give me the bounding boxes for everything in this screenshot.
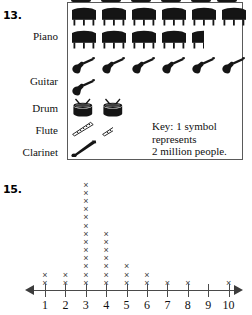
dot-plot-column: × — [223, 279, 235, 287]
dot-plot-column: ×× — [39, 271, 51, 287]
guitar-icon — [101, 57, 125, 75]
axis-tick-label: 7 — [159, 298, 175, 313]
category-label-drum: Drum — [32, 102, 58, 114]
piano-icon — [71, 30, 97, 50]
flute-icon — [71, 121, 95, 137]
piano-symbol — [71, 30, 97, 50]
axis-tick-label: 8 — [180, 298, 196, 313]
axis-tick — [208, 284, 209, 297]
dot-plot-column: ××××××××××××× — [80, 181, 92, 287]
clarinet-icon — [71, 140, 97, 157]
piano-icon — [131, 7, 157, 27]
guitar-symbol-row-1 — [71, 57, 245, 75]
piano-icon — [221, 7, 247, 27]
dot-plot-column: × — [161, 279, 173, 287]
axis-tick-label: 4 — [98, 298, 114, 313]
guitar-symbol — [71, 79, 95, 97]
clarinet-symbol-row — [71, 140, 97, 157]
number-line-axis — [33, 290, 236, 291]
dot-plot-column: ××× — [121, 262, 133, 287]
piano-symbol — [131, 7, 157, 27]
piano-symbol — [101, 30, 127, 50]
piano-symbol — [191, 30, 204, 50]
axis-tick-label: 2 — [57, 298, 73, 313]
guitar-symbol — [131, 57, 155, 75]
guitar-symbol — [221, 57, 245, 75]
guitar-symbol — [71, 57, 95, 75]
piano-symbol — [221, 7, 247, 27]
axis-tick-label: 3 — [78, 298, 94, 313]
flute-icon — [101, 121, 113, 137]
piano-icon — [191, 30, 204, 50]
dot-plot-marker: × — [124, 279, 129, 287]
guitar-symbol — [161, 57, 185, 75]
piano-icon — [71, 7, 97, 27]
dot-plot-chart: 1××2××3×××××××××××××4×××××××5×××6××7×8×9… — [0, 170, 252, 315]
dot-plot-marker: × — [144, 279, 149, 287]
guitar-symbol — [101, 57, 125, 75]
piano-symbol — [101, 7, 127, 27]
dot-plot-column: × — [182, 279, 194, 287]
dot-plot-marker: × — [226, 279, 231, 287]
guitar-icon — [71, 79, 95, 97]
dot-plot-column: ××××××× — [100, 230, 112, 287]
key-line-2: represents — [152, 133, 244, 146]
axis-tick-label: 6 — [139, 298, 155, 313]
category-label-piano: Piano — [33, 30, 58, 42]
pictograph-key: Key: 1 symbol represents 2 million peopl… — [152, 120, 244, 158]
flute-symbol — [71, 121, 95, 137]
piano-symbol — [191, 7, 217, 27]
piano-icon — [191, 7, 217, 27]
piano-symbol — [131, 30, 157, 50]
flute-symbol-row — [71, 121, 113, 137]
axis-tick-label: 5 — [119, 298, 135, 313]
guitar-icon — [191, 57, 215, 75]
axis-arrow-right-icon — [234, 285, 243, 295]
dot-plot-marker: × — [42, 279, 47, 287]
axis-tick-label: 1 — [37, 298, 53, 313]
dot-plot-marker: × — [185, 279, 190, 287]
problem-13-section: 13. Piano Guitar Drum Flute Clarinet — [0, 0, 252, 170]
piano-symbol-row-1 — [71, 7, 247, 27]
axis-arrow-left-icon — [25, 285, 34, 295]
dot-plot-column: ×× — [59, 271, 71, 287]
drum-symbol-row — [71, 98, 125, 118]
category-label-flute: Flute — [35, 124, 58, 136]
piano-icon — [101, 7, 127, 27]
drum-icon — [101, 98, 125, 118]
axis-tick-label: 9 — [200, 298, 216, 313]
key-line-1: Key: 1 symbol — [152, 120, 244, 133]
category-label-clarinet: Clarinet — [23, 146, 58, 158]
problem-13-number: 13. — [3, 9, 22, 22]
drum-symbol — [71, 98, 95, 118]
axis-tick-label: 10 — [221, 298, 237, 313]
guitar-icon — [161, 57, 185, 75]
dot-plot-marker: × — [165, 279, 170, 287]
piano-symbol — [161, 30, 187, 50]
category-label-guitar: Guitar — [30, 75, 58, 87]
guitar-icon — [131, 57, 155, 75]
piano-icon — [161, 30, 187, 50]
key-line-3: 2 million people. — [152, 145, 244, 158]
piano-icon — [101, 30, 127, 50]
drum-symbol — [101, 98, 125, 118]
guitar-symbol — [191, 57, 215, 75]
piano-icon — [161, 7, 187, 27]
dot-plot-marker: × — [83, 279, 88, 287]
piano-icon — [131, 30, 157, 50]
piano-symbol-row-2 — [71, 30, 204, 50]
problem-15-section: 15. 1××2××3×××××××××××××4×××××××5×××6××7… — [0, 170, 252, 315]
drum-icon — [71, 98, 95, 118]
guitar-icon — [71, 57, 95, 75]
dot-plot-marker: × — [63, 279, 68, 287]
guitar-icon — [221, 57, 245, 75]
dot-plot-column: ×× — [141, 271, 153, 287]
piano-symbol — [161, 7, 187, 27]
guitar-symbol-row-2 — [71, 79, 95, 97]
piano-symbol — [71, 7, 97, 27]
dot-plot-marker: × — [104, 279, 109, 287]
clarinet-symbol — [71, 140, 97, 157]
flute-symbol — [101, 121, 113, 137]
